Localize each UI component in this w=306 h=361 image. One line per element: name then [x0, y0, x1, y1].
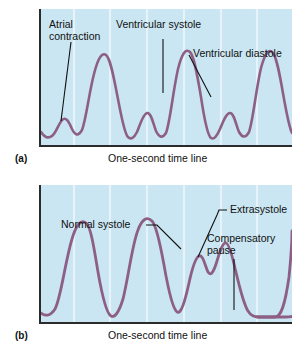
panel-b-plot-area: Normal systole Extrasystole Compensatory…	[41, 185, 292, 322]
cardiac-cycle-figure: Atrial contraction Ventricular systole V…	[0, 0, 306, 361]
panel-b-letter: (b)	[15, 330, 28, 341]
panel-a-letter: (a)	[15, 153, 27, 164]
panel-a-x-axis	[39, 145, 292, 147]
panel-a-caption: One-second time line	[108, 152, 207, 164]
label-compensatory-pause: Compensatory pause	[207, 233, 293, 256]
panel-a-y-axis	[39, 9, 41, 147]
label-normal-systole: Normal systole	[61, 219, 130, 231]
panel-b-y-axis	[39, 185, 41, 324]
panel-b-caption: One-second time line	[108, 329, 207, 341]
label-atrial-contraction-line1: Atrial	[49, 18, 73, 30]
label-extrasystole: Extrasystole	[230, 204, 287, 216]
panel-b: Normal systole Extrasystole Compensatory…	[0, 180, 306, 361]
label-atrial-contraction: Atrial contraction	[49, 19, 113, 42]
label-ventricular-diastole: Ventricular diastole	[193, 48, 282, 60]
label-ventricular-systole: Ventricular systole	[116, 19, 201, 31]
panel-a-waveform	[41, 51, 292, 139]
label-compensatory-pause-line1: Compensatory	[207, 232, 275, 244]
panel-b-x-axis	[39, 322, 292, 324]
panel-a: Atrial contraction Ventricular systole V…	[0, 0, 306, 180]
panel-a-plot-area: Atrial contraction Ventricular systole V…	[41, 9, 292, 145]
label-atrial-contraction-line2: contraction	[49, 30, 100, 42]
label-compensatory-pause-line2: pause	[207, 244, 236, 256]
